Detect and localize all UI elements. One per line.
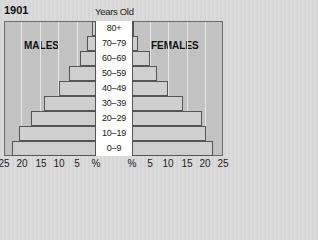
female-bar xyxy=(132,126,206,141)
female-bar xyxy=(132,111,202,126)
chart-year-title: 1901 xyxy=(4,4,28,16)
age-group-label: 10–19 xyxy=(96,126,132,141)
male-bar xyxy=(87,36,96,51)
x-tick-label: 5 xyxy=(147,158,153,169)
female-bar xyxy=(132,21,134,36)
age-group-label: 80+ xyxy=(96,21,132,36)
x-tick-label: 5 xyxy=(74,158,80,169)
female-bar xyxy=(132,96,183,111)
male-bar xyxy=(12,141,96,156)
x-tick-label: 20 xyxy=(199,158,210,169)
male-bar xyxy=(80,51,96,66)
age-group-label: 20–29 xyxy=(96,111,132,126)
x-tick-label: 15 xyxy=(181,158,192,169)
males-label: MALES xyxy=(24,40,59,51)
females-panel: FEMALES xyxy=(132,21,223,156)
x-tick-label: 25 xyxy=(0,158,10,169)
females-label: FEMALES xyxy=(151,40,199,51)
x-tick-label: % xyxy=(92,158,101,169)
age-group-label: 40–49 xyxy=(96,81,132,96)
female-bar xyxy=(132,51,150,66)
female-bar xyxy=(132,141,213,156)
female-bar xyxy=(132,66,157,81)
female-bar xyxy=(132,36,138,51)
x-tick-label: 10 xyxy=(162,158,173,169)
male-bar xyxy=(31,111,96,126)
male-bar xyxy=(69,66,96,81)
x-tick-label: 10 xyxy=(53,158,64,169)
male-bar xyxy=(44,96,96,111)
male-bar xyxy=(19,126,96,141)
age-group-labels: 0–910–1920–2930–3940–4950–5960–6970–7980… xyxy=(96,21,132,156)
x-tick-label: 25 xyxy=(217,158,228,169)
age-group-label: 30–39 xyxy=(96,96,132,111)
age-group-label: 50–59 xyxy=(96,66,132,81)
y-axis-title: Years Old xyxy=(95,6,133,17)
x-tick-label: 15 xyxy=(35,158,46,169)
age-group-label: 70–79 xyxy=(96,36,132,51)
males-panel: MALES xyxy=(4,21,96,156)
x-tick-label: % xyxy=(128,158,137,169)
male-bar xyxy=(59,81,96,96)
x-tick-label: 20 xyxy=(16,158,27,169)
age-group-label: 0–9 xyxy=(96,141,132,156)
female-bar xyxy=(132,81,168,96)
age-group-label: 60–69 xyxy=(96,51,132,66)
